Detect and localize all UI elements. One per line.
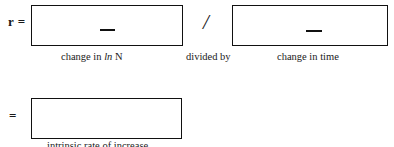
numerator-answer-box[interactable] (31, 5, 183, 46)
equals-symbol: = (9, 109, 16, 122)
result-caption: intrinsic rate of increase (47, 141, 148, 147)
divided-by-caption: divided by (186, 52, 231, 63)
result-answer-box[interactable] (31, 98, 182, 139)
rate-variable-label: r = (8, 15, 26, 28)
numerator-caption-prefix: change in (61, 51, 104, 62)
division-slash-icon: / (203, 12, 209, 33)
denominator-placeholder-dash-icon (306, 30, 322, 32)
denominator-answer-box[interactable] (232, 5, 388, 46)
denominator-caption: change in time (277, 52, 339, 63)
numerator-caption-suffix: N (112, 51, 122, 62)
numerator-placeholder-dash-icon (100, 29, 115, 31)
numerator-caption: change in ln N (61, 52, 123, 63)
formula-worksheet: r = / change in ln N divided by change i… (0, 0, 394, 147)
